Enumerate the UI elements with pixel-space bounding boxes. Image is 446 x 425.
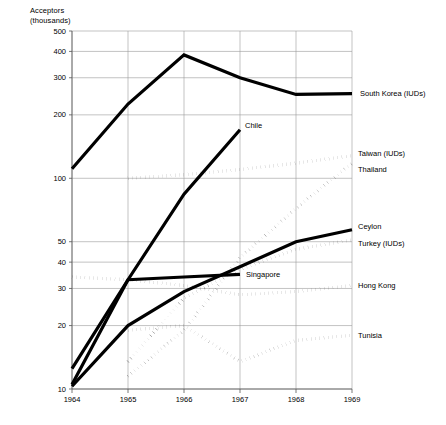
data-series-group: [72, 55, 352, 386]
series-label-hong-kong: Hong Kong: [358, 281, 396, 290]
x-axis-ticks: 196419651966196719681969: [64, 389, 361, 404]
series-label-south-korea-iuds: South Korea (IUDs): [360, 89, 426, 98]
series-label-tunisia: Tunisia: [358, 331, 383, 340]
series-label-singapore: Singapore: [246, 270, 280, 279]
y-tick-label: 300: [53, 73, 66, 82]
series-label-chile: Chile: [245, 121, 262, 130]
series-line-south-korea-iuds: [72, 55, 352, 169]
y-tick-label: 200: [53, 110, 66, 119]
y-tick-label: 100: [53, 174, 66, 183]
chart-plot-area: 1020304050100200300400500 19641965196619…: [0, 0, 446, 425]
series-line-chile: [72, 130, 240, 385]
series-label-taiwan-iuds: Taiwan (IUDs): [358, 149, 406, 158]
series-label-ceylon: Ceylon: [358, 222, 381, 231]
y-tick-label: 30: [58, 284, 66, 293]
x-tick-label: 1964: [64, 395, 81, 404]
series-label-turkey-iuds: Turkey (IUDs): [358, 239, 405, 248]
gridlines-group: [72, 31, 352, 389]
x-tick-label: 1968: [288, 395, 305, 404]
x-tick-label: 1966: [176, 395, 193, 404]
x-tick-label: 1967: [232, 395, 249, 404]
series-label-thailand: Thailand: [358, 165, 387, 174]
series-labels-group: South Korea (IUDs)ChileTaiwan (IUDs)Thai…: [245, 89, 426, 340]
x-tick-label: 1965: [120, 395, 137, 404]
x-tick-label: 1969: [344, 395, 361, 404]
y-tick-label: 10: [58, 385, 66, 394]
y-tick-label: 50: [58, 237, 66, 246]
chart-container: Acceptors (thousands) 102030405010020030…: [0, 0, 446, 425]
y-tick-label: 40: [58, 258, 66, 267]
y-tick-label: 500: [53, 27, 66, 36]
y-tick-label: 20: [58, 321, 66, 330]
y-tick-label: 400: [53, 47, 66, 56]
y-axis-ticks: 1020304050100200300400500: [53, 27, 72, 394]
